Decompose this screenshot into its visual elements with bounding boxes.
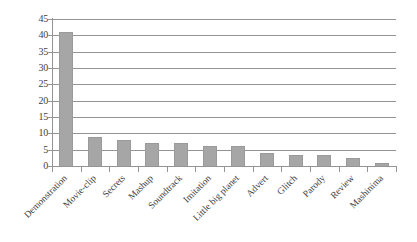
y-axis-tick-label: 15 <box>22 112 48 122</box>
x-axis-tick-mark <box>195 167 196 172</box>
bar[interactable] <box>231 146 245 166</box>
x-axis-tick-mark <box>224 167 225 172</box>
x-axis-tick-label: Review <box>328 173 356 201</box>
bar[interactable] <box>59 32 73 166</box>
x-axis-tick-label: Secrets <box>100 173 126 199</box>
bar[interactable] <box>88 137 102 166</box>
bar[interactable] <box>174 143 188 166</box>
x-axis-tick-mark <box>138 167 139 172</box>
x-axis-tick-mark <box>253 167 254 172</box>
y-axis-tick-label: 10 <box>22 128 48 138</box>
x-axis-tick-mark <box>167 167 168 172</box>
bar[interactable] <box>289 155 303 166</box>
x-axis-tick-mark <box>310 167 311 172</box>
x-axis-tick-mark <box>52 167 53 172</box>
x-axis-tick-mark <box>367 167 368 172</box>
bar[interactable] <box>317 155 331 166</box>
y-axis-tick-label: 25 <box>22 79 48 89</box>
y-axis-tick-label: 0 <box>22 161 48 171</box>
x-axis-tick-label: Parody <box>301 173 327 199</box>
y-axis-tick-label: 5 <box>22 145 48 155</box>
plot-area <box>52 19 396 166</box>
x-axis-tick-mark <box>339 167 340 172</box>
bar[interactable] <box>145 143 159 166</box>
x-axis-tick-label: Glitch <box>275 173 299 197</box>
x-axis-tick-mark <box>81 167 82 172</box>
y-axis-tick-label: 40 <box>22 30 48 40</box>
x-axis-tick-mark <box>281 167 282 172</box>
x-axis-tick-label: Advert <box>244 173 270 199</box>
y-axis-tick-label: 45 <box>22 14 48 24</box>
bar[interactable] <box>117 140 131 166</box>
x-axis-tick-mark <box>396 167 397 172</box>
bar[interactable] <box>346 158 360 166</box>
x-axis-tick-mark <box>109 167 110 172</box>
y-axis-tick-label: 35 <box>22 47 48 57</box>
bar-chart-figure: 051015202530354045 DemonstrationMovie-cl… <box>0 0 417 242</box>
bar[interactable] <box>203 146 217 166</box>
bar[interactable] <box>375 163 389 166</box>
y-axis-tick-label: 30 <box>22 63 48 73</box>
bar[interactable] <box>260 153 274 166</box>
y-axis-tick-label: 20 <box>22 96 48 106</box>
